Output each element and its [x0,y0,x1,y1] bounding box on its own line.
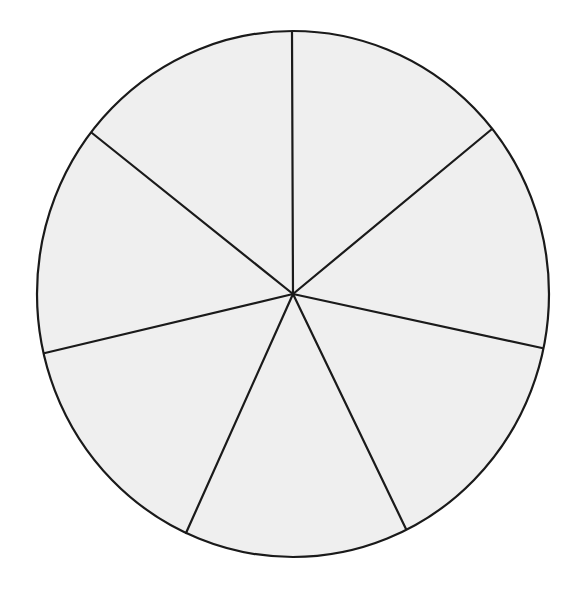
segmented-wheel-diagram [0,0,575,594]
wheel-spoke-1 [292,32,293,294]
